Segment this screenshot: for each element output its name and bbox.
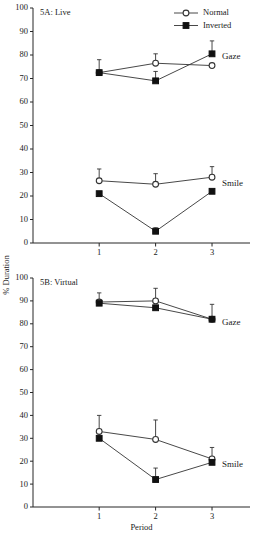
y-tick-label: 10 — [20, 479, 29, 489]
panel-title: 5B: Virtual — [40, 277, 78, 287]
data-point-filled-square-icon — [153, 305, 159, 311]
y-tick-label: 40 — [20, 410, 29, 420]
group-label-gaze: Gaze — [222, 317, 240, 327]
y-tick-label: 100 — [15, 2, 28, 12]
axes — [33, 8, 250, 243]
y-tick-label: 100 — [15, 272, 28, 282]
figure-canvas: 01020304050607080901001235A: LiveGazeSmi… — [0, 0, 278, 549]
data-point-filled-square-icon — [209, 316, 215, 322]
data-point-filled-square-icon — [96, 191, 102, 197]
data-point-open-circle-icon — [153, 437, 159, 443]
series-smile-normal — [96, 167, 215, 188]
x-tick-label: 3 — [210, 511, 214, 521]
data-point-open-circle-icon — [153, 60, 159, 66]
x-tick-label: 1 — [97, 511, 101, 521]
data-point-open-circle-icon — [96, 429, 102, 435]
data-point-open-circle-icon — [153, 298, 159, 304]
group-label-gaze: Gaze — [222, 51, 240, 61]
y-tick-label: 30 — [20, 433, 29, 443]
series-smile-normal — [96, 415, 215, 461]
y-tick-label: 80 — [20, 318, 29, 328]
y-tick-label: 0 — [24, 501, 28, 511]
y-tick-label: 60 — [20, 96, 29, 106]
y-tick-label: 10 — [20, 214, 29, 224]
y-tick-label: 80 — [20, 49, 29, 59]
y-tick-label: 70 — [20, 341, 29, 351]
group-label-smile: Smile — [222, 178, 243, 188]
data-point-filled-square-icon — [153, 228, 159, 234]
chart-panel-5A: 01020304050607080901001235A: LiveGazeSmi… — [15, 2, 250, 256]
y-axis-ticks: 0102030405060708090100 — [15, 2, 33, 247]
y-tick-label: 50 — [20, 120, 29, 130]
data-point-open-circle-icon — [153, 181, 159, 187]
data-point-filled-square-icon — [209, 188, 215, 194]
y-tick-label: 0 — [24, 237, 28, 247]
figure-panel-container: 01020304050607080901001235A: LiveGazeSmi… — [0, 0, 278, 549]
legend-label: Normal — [203, 7, 230, 17]
group-label-smile: Smile — [222, 459, 243, 469]
data-point-filled-square-icon — [209, 51, 215, 57]
legend-filled-square-icon — [183, 23, 189, 29]
y-tick-label: 90 — [20, 26, 29, 36]
y-axis-title: % Duration — [1, 255, 11, 295]
y-tick-label: 60 — [20, 364, 29, 374]
data-point-filled-square-icon — [96, 70, 102, 76]
axes — [33, 278, 250, 507]
data-point-open-circle-icon — [209, 63, 215, 69]
y-tick-label: 30 — [20, 167, 29, 177]
y-tick-label: 90 — [20, 295, 29, 305]
chart-panel-5B: 01020304050607080901001235B: VirtualGaze… — [15, 272, 250, 520]
panel-title: 5A: Live — [40, 7, 71, 17]
legend: NormalInverted — [174, 7, 232, 30]
data-point-filled-square-icon — [96, 300, 102, 306]
legend-open-circle-icon — [183, 10, 189, 16]
y-tick-label: 20 — [20, 456, 29, 466]
y-tick-label: 20 — [20, 190, 29, 200]
data-point-filled-square-icon — [153, 78, 159, 84]
data-point-open-circle-icon — [209, 174, 215, 180]
x-axis-ticks: 123 — [97, 507, 214, 521]
y-tick-label: 40 — [20, 143, 29, 153]
x-tick-label: 3 — [210, 247, 214, 257]
data-point-open-circle-icon — [96, 178, 102, 184]
x-tick-label: 2 — [153, 511, 157, 521]
x-tick-label: 1 — [97, 247, 101, 257]
series-smile-inverted — [96, 188, 215, 234]
data-point-filled-square-icon — [209, 459, 215, 465]
x-tick-label: 2 — [153, 247, 157, 257]
y-axis-ticks: 0102030405060708090100 — [15, 272, 33, 511]
y-tick-label: 70 — [20, 73, 29, 83]
x-axis-ticks: 123 — [97, 243, 214, 257]
data-point-filled-square-icon — [153, 477, 159, 483]
y-tick-label: 50 — [20, 387, 29, 397]
series-line — [99, 191, 212, 231]
legend-label: Inverted — [203, 20, 232, 30]
data-point-filled-square-icon — [96, 435, 102, 441]
x-axis-title: Period — [130, 522, 153, 532]
